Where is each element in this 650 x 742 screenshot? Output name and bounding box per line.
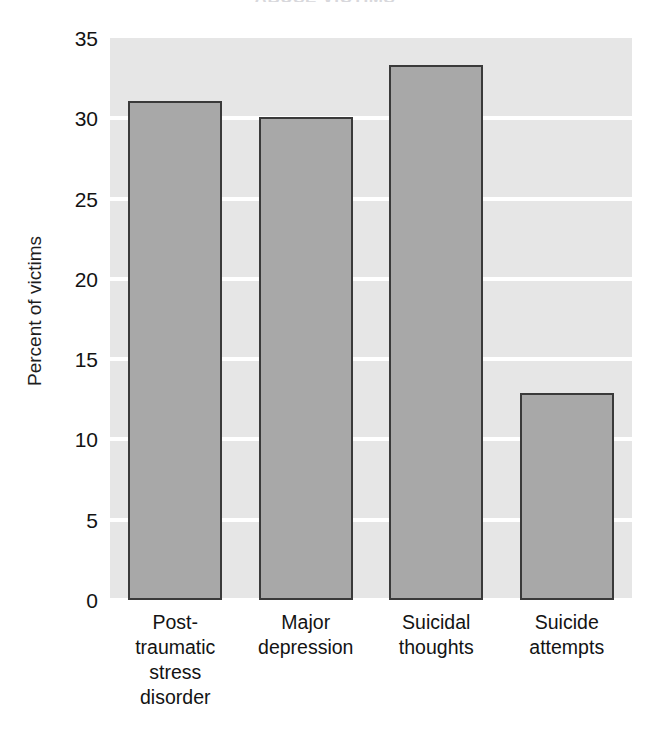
bar <box>520 393 614 600</box>
x-tick-label-line: disorder <box>110 685 241 710</box>
y-tick-label: 20 <box>28 269 98 290</box>
bar-chart-figure: ABUSE VICTIMS Percent of victims 0510152… <box>0 0 650 742</box>
x-tick-label: Suicideattempts <box>502 610 633 660</box>
bar-series <box>110 38 632 600</box>
y-tick-label: 25 <box>28 189 98 210</box>
y-tick-label: 35 <box>28 28 98 49</box>
x-tick-label-line: Suicidal <box>371 610 502 635</box>
y-tick-label: 30 <box>28 108 98 129</box>
plot-area <box>110 38 632 600</box>
y-tick-label: 0 <box>28 590 98 611</box>
x-tick-label-line: thoughts <box>371 635 502 660</box>
x-tick-label-line: Major <box>241 610 372 635</box>
x-tick-label-line: Post- <box>110 610 241 635</box>
x-tick-label-line: Suicide <box>502 610 633 635</box>
x-tick-label: Majordepression <box>241 610 372 660</box>
y-tick-label: 5 <box>28 510 98 531</box>
x-tick-label-line: traumatic <box>110 635 241 660</box>
bar <box>259 117 353 600</box>
y-tick-label: 15 <box>28 349 98 370</box>
y-axis-label: Percent of victims <box>24 181 46 441</box>
x-tick-label: Post-traumaticstressdisorder <box>110 610 241 710</box>
x-tick-label-line: stress <box>110 660 241 685</box>
chart-title: ABUSE VICTIMS <box>0 0 650 2</box>
y-tick-label: 10 <box>28 429 98 450</box>
bar <box>389 65 483 600</box>
x-tick-label: Suicidalthoughts <box>371 610 502 660</box>
x-tick-label-line: depression <box>241 635 372 660</box>
x-tick-label-line: attempts <box>502 635 633 660</box>
bar <box>128 101 222 600</box>
